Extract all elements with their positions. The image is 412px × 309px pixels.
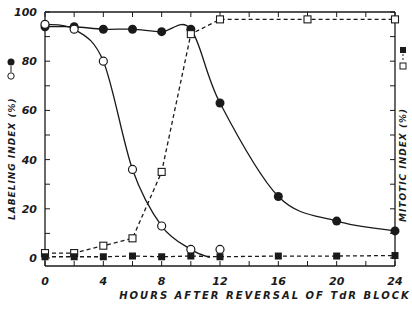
x-tick-label: 8 xyxy=(158,275,166,288)
y-tick-label: 20 xyxy=(22,203,38,216)
filled-square-marker xyxy=(100,253,107,260)
open-square-marker xyxy=(217,16,224,23)
open-circle-marker xyxy=(41,20,49,28)
open-square-marker xyxy=(100,242,107,249)
x-tick-label: 0 xyxy=(41,275,49,288)
open-circle-marker xyxy=(187,245,195,253)
chart: 04812162024020406080100 HOURS AFTER REVE… xyxy=(0,0,412,309)
open-square-marker xyxy=(129,235,136,242)
filled-square-marker xyxy=(217,253,224,260)
legend-left xyxy=(8,59,15,80)
filled-square-marker xyxy=(392,252,399,259)
open-square-marker xyxy=(187,31,194,38)
filled-circle-marker xyxy=(332,217,341,226)
filled-square-marker xyxy=(71,253,78,260)
legend-filled-square-icon xyxy=(400,47,406,53)
open-circle-marker xyxy=(129,165,137,173)
filled-square-marker xyxy=(187,253,194,260)
y-tick-label: 40 xyxy=(21,154,38,167)
legend-filled-circle-icon xyxy=(8,59,15,66)
y-tick-label: 100 xyxy=(14,6,37,19)
filled-square-marker xyxy=(42,253,49,260)
series-lines xyxy=(45,19,395,257)
x-tick-label: 12 xyxy=(212,275,228,288)
series-line xyxy=(45,19,395,253)
open-circle-marker xyxy=(70,25,78,33)
open-circle-marker xyxy=(99,57,107,65)
open-square-marker xyxy=(304,16,311,23)
y-tick-label: 60 xyxy=(22,104,38,117)
filled-circle-marker xyxy=(157,27,166,36)
filled-square-marker xyxy=(333,253,340,260)
y-tick-label: 80 xyxy=(22,55,38,68)
y-axis-right-title-group: MITOTIC INDEX (%) xyxy=(398,108,408,222)
x-tick-label: 20 xyxy=(329,275,345,288)
y-axis-left-title: LABELING INDEX (%) xyxy=(7,97,17,220)
y-axis-right-title: MITOTIC INDEX (%) xyxy=(398,108,408,222)
open-circle-marker xyxy=(158,222,166,230)
legend-right xyxy=(400,47,406,69)
filled-circle-marker xyxy=(99,25,108,34)
filled-circle-marker xyxy=(128,25,137,34)
x-tick-label: 4 xyxy=(99,275,108,288)
filled-square-marker xyxy=(275,253,282,260)
filled-circle-marker xyxy=(216,99,225,108)
y-tick-label: 0 xyxy=(29,252,37,265)
filled-circle-marker xyxy=(274,192,283,201)
tick-labels: 04812162024020406080100 xyxy=(14,6,403,288)
x-tick-label: 24 xyxy=(387,275,402,288)
open-square-marker xyxy=(392,16,399,23)
x-axis-title: HOURS AFTER REVERSAL OF TdR BLOCK xyxy=(119,290,411,301)
y-axis-left-title-group: LABELING INDEX (%) xyxy=(7,97,17,220)
filled-circle-marker xyxy=(391,226,400,235)
filled-square-marker xyxy=(129,253,136,260)
series-line xyxy=(45,25,395,231)
open-square-marker xyxy=(158,168,165,175)
open-circle-marker xyxy=(216,245,224,253)
legend-open-circle-icon xyxy=(8,73,14,79)
legend-open-square-icon xyxy=(400,63,406,69)
x-tick-label: 16 xyxy=(271,275,287,288)
filled-square-marker xyxy=(158,253,165,260)
